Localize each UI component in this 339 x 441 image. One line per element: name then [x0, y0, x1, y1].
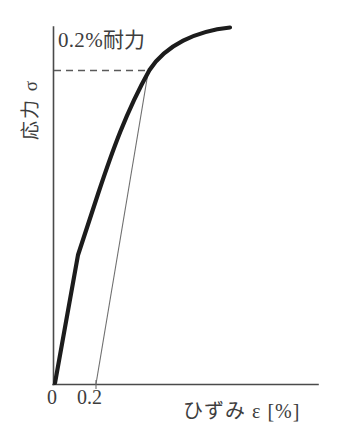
stress-strain-figure: 0.2%耐力 応力 σ ひずみ ε [%] 0 0.2 [0, 0, 339, 441]
x-tick-label-0-2: 0.2 [77, 387, 102, 407]
stress-strain-curve [55, 28, 230, 384]
offset-construction-line [96, 70, 149, 384]
x-tick-label-0: 0 [47, 387, 57, 407]
x-axis-label: ひずみ ε [%] [183, 401, 300, 421]
y-axis-label: 応力 σ [21, 74, 40, 146]
proof-stress-label: 0.2%耐力 [58, 30, 146, 51]
plot-canvas [0, 0, 339, 441]
